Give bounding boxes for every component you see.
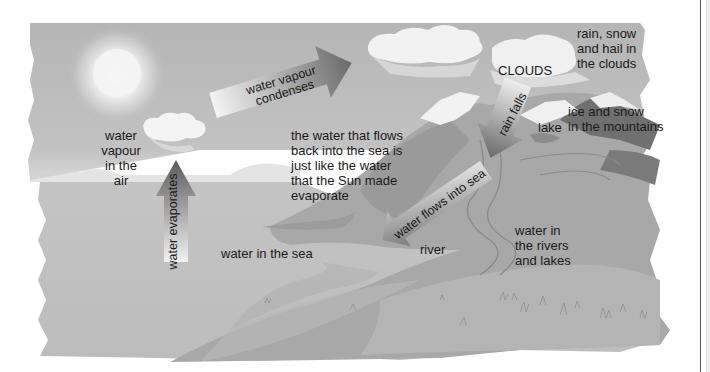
scrollbar-track[interactable] — [706, 0, 710, 372]
page-border — [700, 0, 701, 372]
label-rain-snow-hail: rain, snow and hail in the clouds — [577, 26, 636, 71]
label-clouds: CLOUDS — [498, 63, 552, 78]
label-ice-snow-mountains: ice and snow in the mountains — [568, 104, 663, 134]
label-water-in-sea: water in the sea — [221, 246, 313, 261]
label-water-vapour-in-air: water vapour in the air — [92, 128, 150, 188]
label-water-rivers-lakes: water in the rivers and lakes — [515, 223, 571, 268]
label-lake: lake — [538, 120, 562, 135]
label-river: river — [420, 242, 445, 257]
label-water-flows-back: the water that flows back into the sea i… — [291, 128, 403, 203]
label-water-evaporates: water evaporates — [167, 167, 180, 277]
